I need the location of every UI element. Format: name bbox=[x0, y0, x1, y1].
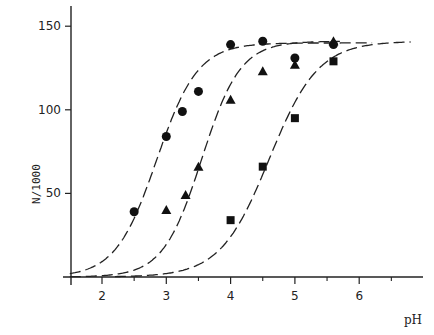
x-tick-label: 2 bbox=[98, 289, 106, 303]
triangle-marker bbox=[290, 60, 300, 69]
square-marker bbox=[227, 216, 235, 224]
data-points bbox=[130, 36, 339, 224]
x-axis-label: pH bbox=[404, 313, 422, 327]
square-marker bbox=[329, 57, 337, 65]
y-tick-label: 50 bbox=[46, 186, 61, 200]
fit-curve-squares bbox=[115, 42, 411, 277]
square-marker bbox=[259, 163, 267, 171]
triangle-marker bbox=[161, 205, 171, 214]
circle-marker bbox=[194, 87, 203, 96]
fit-curve-triangles bbox=[70, 41, 340, 276]
circle-marker bbox=[178, 107, 187, 116]
x-tick-label: 4 bbox=[227, 289, 235, 303]
y-tick-label: 100 bbox=[38, 103, 61, 117]
y-tick-label: 150 bbox=[38, 19, 61, 33]
circle-marker bbox=[130, 207, 139, 216]
circle-marker bbox=[258, 37, 267, 46]
x-tick-label: 3 bbox=[162, 289, 170, 303]
x-tick-label: 6 bbox=[355, 289, 363, 303]
triangle-marker bbox=[258, 66, 268, 75]
triangle-marker bbox=[226, 95, 236, 104]
triangle-marker bbox=[193, 162, 203, 171]
triangle-marker bbox=[328, 36, 338, 45]
fit-curve-circles bbox=[70, 43, 372, 274]
fit-curves bbox=[70, 41, 411, 276]
x-tick-label: 5 bbox=[291, 289, 299, 303]
circle-marker bbox=[226, 40, 235, 49]
square-marker bbox=[291, 114, 299, 122]
chart: 5010015023456 N/1000 pH bbox=[0, 0, 434, 335]
circle-marker bbox=[162, 132, 171, 141]
axes bbox=[63, 6, 423, 285]
y-axis-label: N/1000 bbox=[30, 164, 43, 204]
